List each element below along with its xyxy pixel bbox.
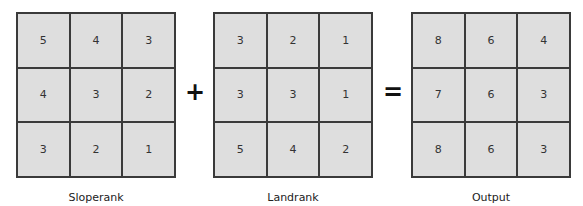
grid-cell: 3 bbox=[70, 68, 123, 123]
grid-cell: 3 bbox=[214, 13, 267, 68]
grid-cell: 6 bbox=[465, 68, 518, 123]
grid-cell: 2 bbox=[319, 122, 372, 177]
grid-cell: 3 bbox=[517, 68, 570, 123]
grid-cell: 5 bbox=[214, 122, 267, 177]
landrank-label: Landrank bbox=[213, 191, 373, 204]
grid-cell: 6 bbox=[465, 122, 518, 177]
grid-cell: 1 bbox=[122, 122, 175, 177]
grid-cell: 1 bbox=[319, 68, 372, 123]
grid-cell: 2 bbox=[122, 68, 175, 123]
landrank-grid: 3 2 1 3 3 1 5 4 2 bbox=[213, 12, 373, 178]
plus-operator: + bbox=[185, 80, 205, 104]
grid-cell: 2 bbox=[267, 13, 320, 68]
grid-cell: 4 bbox=[70, 13, 123, 68]
grid-cell: 8 bbox=[412, 13, 465, 68]
grid-cell: 3 bbox=[122, 13, 175, 68]
grid-cell: 3 bbox=[17, 122, 70, 177]
grid-cell: 3 bbox=[517, 122, 570, 177]
grid-cell: 4 bbox=[267, 122, 320, 177]
grid-cell: 3 bbox=[267, 68, 320, 123]
grid-cell: 2 bbox=[70, 122, 123, 177]
grid-cell: 6 bbox=[465, 13, 518, 68]
grid-cell: 7 bbox=[412, 68, 465, 123]
grid-cell: 8 bbox=[412, 122, 465, 177]
equals-operator: = bbox=[383, 80, 403, 104]
sloperank-label: Sloperank bbox=[16, 191, 176, 204]
grid-cell: 4 bbox=[517, 13, 570, 68]
grid-cell: 4 bbox=[17, 68, 70, 123]
grid-cell: 1 bbox=[319, 13, 372, 68]
sloperank-grid: 5 4 3 4 3 2 3 2 1 bbox=[16, 12, 176, 178]
grid-cell: 5 bbox=[17, 13, 70, 68]
output-label: Output bbox=[411, 191, 571, 204]
output-grid: 8 6 4 7 6 3 8 6 3 bbox=[411, 12, 571, 178]
grid-cell: 3 bbox=[214, 68, 267, 123]
